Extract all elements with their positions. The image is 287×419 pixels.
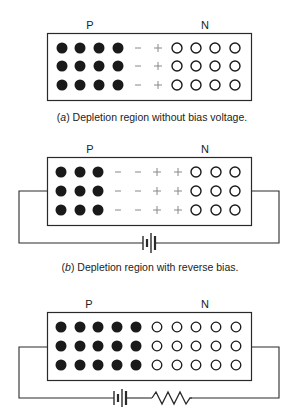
pn-junction-diagram <box>0 0 287 419</box>
panel-a-electrons <box>172 43 240 90</box>
panel-a-holes <box>57 43 124 91</box>
panel-c <box>19 313 279 408</box>
battery-icon <box>114 389 126 407</box>
panel-a-positive-ions <box>154 44 162 89</box>
panel-c-circuit-wire <box>19 347 279 398</box>
panel-c-holes <box>56 322 142 371</box>
panel-b-negative-ions <box>115 172 141 210</box>
panel-a <box>48 34 252 101</box>
panel-b <box>19 158 279 254</box>
panel-a-negative-ions <box>135 48 141 85</box>
resistor-icon <box>152 392 192 404</box>
panel-b-positive-ions <box>153 168 182 214</box>
panel-b-holes <box>56 167 104 216</box>
panel-b-circuit-wire <box>19 191 279 243</box>
battery-icon <box>143 233 158 253</box>
panel-b-electrons <box>191 167 240 215</box>
panel-c-electrons <box>152 322 241 370</box>
